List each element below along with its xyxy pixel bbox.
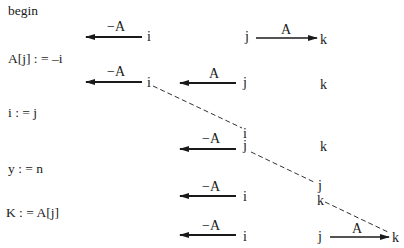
statement-assign-a: A[j] : = –i (8, 52, 62, 66)
edge-label-a: A (209, 67, 219, 81)
node-j: j (243, 139, 247, 153)
diagram-lines (0, 0, 404, 248)
node-i: i (147, 76, 151, 90)
node-i: i (243, 190, 247, 204)
edge-label-neg-a: −A (202, 180, 220, 194)
node-j: j (318, 179, 322, 193)
edge-label-neg-a: −A (202, 132, 220, 146)
edge-label-a: A (352, 222, 362, 236)
edge-label-a: A (281, 23, 291, 37)
dashed-trace-1 (153, 86, 242, 128)
statement-assign-y: y : = n (8, 162, 43, 176)
statement-assign-i: i : = j (8, 106, 37, 120)
statement-assign-k: K : = A[j] (6, 206, 59, 220)
dashed-trace-2 (251, 152, 316, 183)
node-i: i (147, 30, 151, 44)
node-k: k (320, 33, 327, 47)
node-i: i (243, 230, 247, 244)
node-k: k (392, 231, 399, 245)
node-k: k (317, 194, 324, 208)
node-k: k (320, 140, 327, 154)
edge-label-neg-a: −A (202, 219, 220, 233)
node-k: k (320, 78, 327, 92)
edge-label-neg-a: −A (107, 20, 125, 34)
node-j: j (243, 76, 247, 90)
statement-begin: begin (8, 4, 38, 18)
edge-label-neg-a: −A (107, 65, 125, 79)
node-j: j (245, 30, 249, 44)
node-j: j (318, 230, 322, 244)
